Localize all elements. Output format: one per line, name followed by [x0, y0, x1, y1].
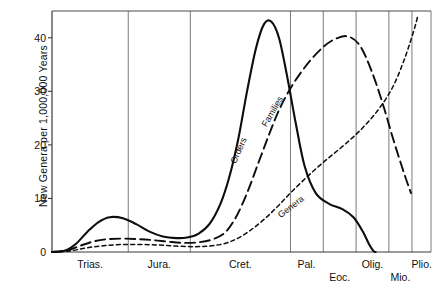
x-tick-label-plio: Plio.	[411, 258, 431, 270]
y-tick-label: 20	[34, 139, 46, 151]
x-tick-label-mio: Mio.	[390, 271, 410, 283]
x-tick-label-cret: Cret.	[229, 258, 252, 270]
x-tick-label-olig: Olig.	[362, 258, 384, 270]
axis-lines	[52, 11, 431, 252]
plot-area	[0, 0, 434, 290]
x-tick-label-jura: Jura.	[148, 258, 171, 270]
series-line-families	[52, 36, 411, 252]
figure-chart: New Genera per 1,000,000 Years 010203040…	[0, 0, 434, 290]
y-tick-label: 30	[34, 85, 46, 97]
y-axis-tick-labels: 010203040	[18, 0, 46, 290]
y-tick-label: 10	[34, 192, 46, 204]
x-tick-label-trias: Trias.	[77, 258, 103, 270]
x-tick-label-pal: Pal.	[297, 258, 315, 270]
y-tick-label: 0	[40, 246, 46, 258]
y-tick-label: 40	[34, 32, 46, 44]
series-line-orders	[52, 20, 376, 252]
series-lines	[52, 16, 418, 252]
x-tick-label-eoc: Eoc.	[329, 271, 350, 283]
